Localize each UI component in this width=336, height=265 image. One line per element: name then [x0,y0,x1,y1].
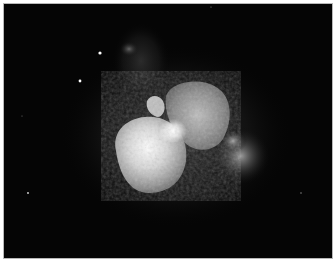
nebula-image [4,4,332,258]
nebula-lobes [101,71,241,201]
nebula-image-frame [3,3,333,259]
